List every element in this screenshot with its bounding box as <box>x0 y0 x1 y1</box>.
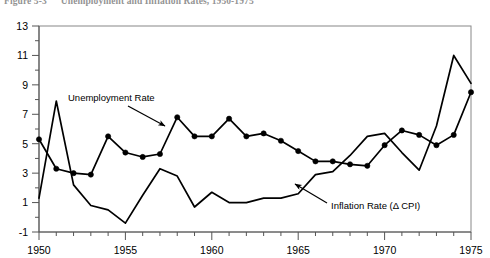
series-data-point <box>330 159 335 164</box>
y-axis-tick-label: -1 <box>19 226 28 238</box>
series-data-point <box>244 134 249 139</box>
x-axis-tick-label: 1975 <box>459 244 483 256</box>
series-data-point <box>313 159 318 164</box>
y-axis-tick-label: 7 <box>22 108 28 120</box>
x-axis-tick-label: 1970 <box>373 244 397 256</box>
y-axis-tick-label: 11 <box>17 49 28 61</box>
unemployment-inflation-chart: -1135791113 195019551960196519701975 Une… <box>0 0 490 258</box>
x-axis-tick-label: 1955 <box>114 244 138 256</box>
series-data-point <box>54 166 59 171</box>
figure-container: Figure 5-3Unemployment and Inflation Rat… <box>0 0 490 258</box>
x-axis-tick-label: 1950 <box>27 244 51 256</box>
series-data-point <box>88 172 93 177</box>
series-line <box>39 92 471 174</box>
series-data-point <box>36 137 41 142</box>
y-axis-tick-label: 3 <box>22 167 28 179</box>
series-data-point <box>434 143 439 148</box>
series-line <box>39 55 471 223</box>
series-data-point <box>417 132 422 137</box>
annotation-arrow <box>128 106 165 126</box>
series-data-point <box>157 151 162 156</box>
series-data-point <box>209 134 214 139</box>
annotation-group: Unemployment RateInflation Rate (Δ CPI) <box>68 92 420 211</box>
y-axis: -1135791113 <box>16 20 39 238</box>
series-data-point <box>123 150 128 155</box>
x-axis: 195019551960196519701975 <box>27 232 483 256</box>
series-data-point <box>451 132 456 137</box>
annotation-arrow <box>295 184 327 203</box>
data-series-group <box>36 55 473 223</box>
series-data-point <box>468 90 473 95</box>
series-data-point <box>226 116 231 121</box>
series-data-point <box>278 138 283 143</box>
y-axis-tick-label: 1 <box>22 196 28 208</box>
series-data-point <box>296 148 301 153</box>
series-data-point <box>175 115 180 120</box>
series-data-point <box>106 134 111 139</box>
series-data-point <box>399 128 404 133</box>
series-data-point <box>192 134 197 139</box>
series-annotation-label: Unemployment Rate <box>68 92 155 103</box>
series-data-point <box>382 143 387 148</box>
x-axis-tick-label: 1965 <box>287 244 311 256</box>
series-data-point <box>140 154 145 159</box>
series-data-point <box>347 162 352 167</box>
y-axis-tick-label: 9 <box>22 79 28 91</box>
y-axis-tick-label: 5 <box>22 138 28 150</box>
x-axis-tick-label: 1960 <box>200 244 224 256</box>
series-data-point <box>261 131 266 136</box>
y-axis-tick-label: 13 <box>16 20 28 32</box>
series-annotation-label: Inflation Rate (Δ CPI) <box>331 200 420 211</box>
series-data-point <box>365 163 370 168</box>
